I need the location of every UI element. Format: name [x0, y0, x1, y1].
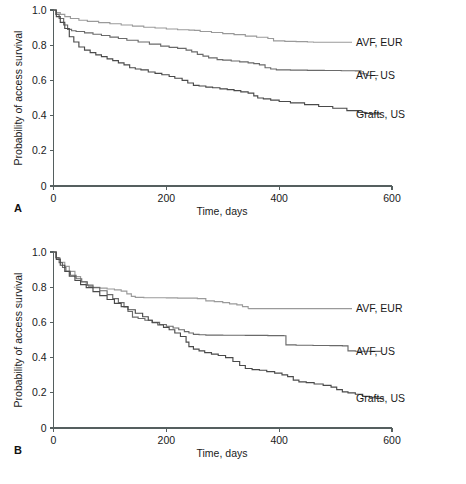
series-label: Grafts, US: [356, 392, 405, 404]
series-label: AVF, EUR: [356, 302, 403, 314]
x-tick-label: 400: [270, 192, 288, 204]
y-tick-label: 0.6: [32, 316, 47, 328]
y-tick-label: 0.6: [32, 74, 47, 86]
series-label: AVF, US: [356, 69, 395, 81]
series-label: Grafts, US: [356, 108, 405, 120]
panel-a-series-labels: AVF, EURAVF, USGrafts, US: [356, 36, 405, 120]
panel-b-y-ticks: 00.20.40.60.81.0: [32, 246, 54, 434]
y-tick-label: 0.2: [32, 386, 47, 398]
curve-avf-eur: [54, 252, 249, 309]
figure-survival-curves: 00.20.40.60.81.0 0200400600 Probability …: [0, 0, 466, 484]
y-tick-label: 0.4: [32, 351, 47, 363]
panel-b-plot: 00.20.40.60.81.0 0200400600 Probability …: [0, 240, 466, 482]
panel-a-label: A: [14, 202, 22, 214]
series-label: AVF, EUR: [356, 36, 403, 48]
curve-avf-eur: [54, 10, 314, 42]
x-tick-label: 0: [51, 192, 57, 204]
y-tick-label: 0.4: [32, 109, 47, 121]
y-tick-label: 1.0: [32, 246, 47, 258]
panel-a-x-ticks: 0200400600: [51, 186, 401, 204]
panel-b: 00.20.40.60.81.0 0200400600 Probability …: [0, 240, 466, 482]
y-tick-label: 0: [41, 422, 47, 434]
panel-a: 00.20.40.60.81.0 0200400600 Probability …: [0, 0, 466, 242]
y-tick-label: 0: [41, 180, 47, 192]
x-tick-label: 200: [158, 434, 176, 446]
panel-b-x-axis-title: Time, days: [197, 447, 248, 459]
curve-avf-us: [54, 10, 378, 76]
panel-a-y-axis-title: Probability of access survival: [12, 31, 24, 166]
x-tick-label: 600: [383, 434, 401, 446]
x-tick-label: 200: [158, 192, 176, 204]
panel-b-label: B: [14, 444, 22, 456]
panel-a-curves: [54, 10, 381, 114]
panel-a-y-ticks: 00.20.40.60.81.0: [32, 4, 54, 192]
series-label: AVF, US: [356, 345, 395, 357]
panel-b-x-ticks: 0200400600: [51, 428, 401, 446]
x-tick-label: 400: [270, 434, 288, 446]
x-tick-label: 600: [383, 192, 401, 204]
y-tick-label: 1.0: [32, 4, 47, 16]
y-tick-label: 0.8: [32, 39, 47, 51]
x-tick-label: 0: [51, 434, 57, 446]
panel-b-curves: [54, 252, 384, 399]
y-tick-label: 0.8: [32, 281, 47, 293]
panel-b-y-axis-title: Probability of access survival: [12, 273, 24, 408]
curve-grafts-us: [54, 252, 384, 399]
panel-a-axes: [54, 10, 393, 186]
panel-a-x-axis-title: Time, days: [197, 205, 248, 217]
panel-b-axes: [54, 252, 393, 428]
curve-grafts-us: [54, 10, 381, 114]
panel-b-series-labels: AVF, EURAVF, USGrafts, US: [356, 302, 405, 404]
panel-a-plot: 00.20.40.60.81.0 0200400600 Probability …: [0, 0, 466, 242]
y-tick-label: 0.2: [32, 144, 47, 156]
